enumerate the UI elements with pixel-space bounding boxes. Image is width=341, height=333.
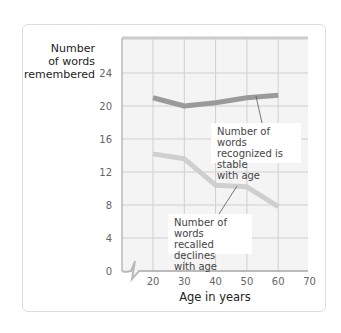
annotation-line: Number of words <box>174 217 246 239</box>
y-axis-title-line: remembered <box>24 68 95 81</box>
x-tick-label: 30 <box>178 276 191 287</box>
annotation-line: recalled declines <box>174 239 246 261</box>
x-tick-label: 50 <box>241 276 254 287</box>
annotation-line: with age <box>174 261 246 272</box>
annotation-line: Number of words <box>217 126 295 148</box>
x-tick-label: 70 <box>303 276 316 287</box>
annotation-recalled: Number of words recalled declines with a… <box>168 214 252 254</box>
y-tick-label: 8 <box>106 200 112 211</box>
x-tick-label: 20 <box>147 276 160 287</box>
y-tick-label: 4 <box>106 233 112 244</box>
y-axis-title-line: of words <box>24 55 95 68</box>
y-tick-label: 12 <box>99 167 112 178</box>
x-tick-label: 40 <box>209 276 222 287</box>
y-axis-title-line: Number <box>24 42 95 55</box>
y-tick-label: 0 <box>106 266 112 277</box>
y-axis-title: Number of words remembered <box>24 42 95 81</box>
x-tick-label: 60 <box>272 276 285 287</box>
annotation-recognized: Number of words recognized is stable wit… <box>211 123 301 163</box>
y-tick-label: 16 <box>99 134 112 145</box>
y-tick-label: 20 <box>99 101 112 112</box>
annotation-line: recognized is stable <box>217 148 295 170</box>
y-tick-label: 24 <box>99 68 112 79</box>
x-axis-title: Age in years <box>160 290 270 304</box>
annotation-line: with age <box>217 170 295 181</box>
